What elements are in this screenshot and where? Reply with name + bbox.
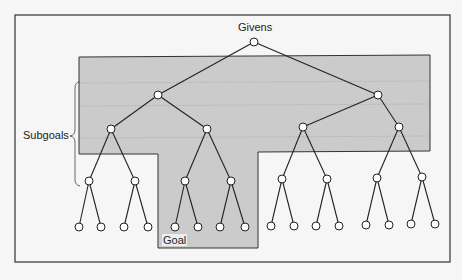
leaf-node (194, 223, 202, 231)
root-node-givens (250, 38, 258, 46)
tree-node (154, 91, 162, 99)
tree-node (227, 177, 235, 185)
tree-node (395, 123, 403, 131)
goal-leaf-node (171, 223, 179, 231)
tree-node (323, 175, 331, 183)
tree-node (374, 91, 382, 99)
leaf-node (144, 223, 152, 231)
givens-label: Givens (238, 21, 272, 33)
tree-node (299, 123, 307, 131)
tree-node (85, 177, 93, 185)
search-tree-diagram (0, 0, 462, 280)
tree-node (203, 125, 211, 133)
goal-label: Goal (162, 234, 187, 246)
tree-node (418, 173, 426, 181)
tree-node (131, 177, 139, 185)
leaf-node (431, 220, 439, 228)
tree-node (373, 174, 381, 182)
leaf-node (97, 223, 105, 231)
leaf-node (312, 222, 320, 230)
leaf-node (335, 222, 343, 230)
leaf-node (290, 222, 298, 230)
tree-node (181, 177, 189, 185)
leaf-node (216, 223, 224, 231)
leaf-node (362, 221, 370, 229)
tree-node (107, 125, 115, 133)
tree-node (278, 175, 286, 183)
leaf-node (241, 223, 249, 231)
leaf-node (120, 223, 128, 231)
subgoals-label: Subgoals (23, 129, 69, 141)
leaf-node (267, 222, 275, 230)
leaf-node (407, 220, 415, 228)
leaf-node (385, 221, 393, 229)
leaf-node (75, 223, 83, 231)
